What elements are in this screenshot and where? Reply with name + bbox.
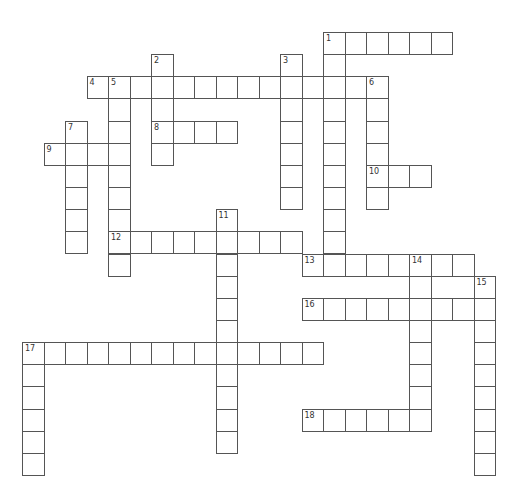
crossword-cell[interactable]	[474, 298, 497, 321]
crossword-cell[interactable]	[65, 143, 88, 166]
crossword-cell[interactable]: 18	[302, 409, 325, 432]
crossword-cell[interactable]	[474, 364, 497, 387]
crossword-cell[interactable]	[323, 298, 346, 321]
crossword-cell[interactable]	[237, 342, 260, 365]
crossword-cell[interactable]	[323, 121, 346, 144]
crossword-cell[interactable]	[366, 298, 389, 321]
crossword-cell[interactable]	[302, 342, 325, 365]
crossword-cell[interactable]	[323, 187, 346, 210]
crossword-cell[interactable]	[280, 98, 303, 121]
crossword-cell[interactable]	[216, 276, 239, 299]
crossword-cell[interactable]: 6	[366, 76, 389, 99]
crossword-cell[interactable]	[108, 187, 131, 210]
crossword-cell[interactable]	[323, 209, 346, 232]
crossword-cell[interactable]	[409, 320, 432, 343]
crossword-cell[interactable]	[345, 298, 368, 321]
crossword-cell[interactable]	[366, 187, 389, 210]
crossword-cell[interactable]: 7	[65, 121, 88, 144]
crossword-cell[interactable]	[474, 453, 497, 476]
crossword-cell[interactable]	[108, 165, 131, 188]
crossword-cell[interactable]	[173, 121, 196, 144]
crossword-cell[interactable]	[87, 143, 110, 166]
crossword-cell[interactable]	[130, 342, 153, 365]
crossword-cell[interactable]	[87, 342, 110, 365]
crossword-cell[interactable]	[130, 231, 153, 254]
crossword-cell[interactable]	[345, 76, 368, 99]
crossword-cell[interactable]: 14	[409, 254, 432, 277]
crossword-cell[interactable]	[22, 453, 45, 476]
crossword-cell[interactable]: 13	[302, 254, 325, 277]
crossword-cell[interactable]	[280, 342, 303, 365]
crossword-cell[interactable]: 4	[87, 76, 110, 99]
crossword-cell[interactable]	[474, 342, 497, 365]
crossword-cell[interactable]	[108, 98, 131, 121]
crossword-cell[interactable]: 3	[280, 54, 303, 77]
crossword-cell[interactable]	[216, 320, 239, 343]
crossword-cell[interactable]	[388, 298, 411, 321]
crossword-cell[interactable]	[323, 254, 346, 277]
crossword-cell[interactable]: 1	[323, 32, 346, 55]
crossword-cell[interactable]	[151, 76, 174, 99]
crossword-cell[interactable]	[323, 54, 346, 77]
crossword-cell[interactable]	[280, 76, 303, 99]
crossword-cell[interactable]	[345, 32, 368, 55]
crossword-cell[interactable]	[108, 209, 131, 232]
crossword-cell[interactable]	[151, 98, 174, 121]
crossword-cell[interactable]	[194, 231, 217, 254]
crossword-cell[interactable]: 15	[474, 276, 497, 299]
crossword-cell[interactable]	[366, 143, 389, 166]
crossword-cell[interactable]	[366, 32, 389, 55]
crossword-cell[interactable]	[108, 342, 131, 365]
crossword-cell[interactable]	[409, 276, 432, 299]
crossword-cell[interactable]	[216, 254, 239, 277]
crossword-cell[interactable]	[280, 165, 303, 188]
crossword-cell[interactable]	[65, 165, 88, 188]
crossword-cell[interactable]	[216, 386, 239, 409]
crossword-cell[interactable]	[194, 342, 217, 365]
crossword-cell[interactable]: 8	[151, 121, 174, 144]
crossword-cell[interactable]	[216, 409, 239, 432]
crossword-cell[interactable]	[280, 143, 303, 166]
crossword-cell[interactable]	[366, 121, 389, 144]
crossword-cell[interactable]	[323, 409, 346, 432]
crossword-cell[interactable]	[216, 364, 239, 387]
crossword-cell[interactable]	[409, 409, 432, 432]
crossword-cell[interactable]	[108, 254, 131, 277]
crossword-cell[interactable]	[431, 254, 454, 277]
crossword-cell[interactable]	[409, 386, 432, 409]
crossword-cell[interactable]	[237, 231, 260, 254]
crossword-cell[interactable]: 11	[216, 209, 239, 232]
crossword-cell[interactable]	[280, 121, 303, 144]
crossword-cell[interactable]	[194, 76, 217, 99]
crossword-cell[interactable]	[216, 342, 239, 365]
crossword-cell[interactable]	[323, 98, 346, 121]
crossword-cell[interactable]	[216, 231, 239, 254]
crossword-cell[interactable]	[366, 254, 389, 277]
crossword-cell[interactable]	[323, 76, 346, 99]
crossword-cell[interactable]	[452, 298, 475, 321]
crossword-cell[interactable]	[431, 298, 454, 321]
crossword-cell[interactable]	[65, 231, 88, 254]
crossword-cell[interactable]	[474, 386, 497, 409]
crossword-cell[interactable]: 12	[108, 231, 131, 254]
crossword-cell[interactable]	[452, 254, 475, 277]
crossword-cell[interactable]	[366, 409, 389, 432]
crossword-cell[interactable]: 9	[44, 143, 67, 166]
crossword-cell[interactable]	[108, 143, 131, 166]
crossword-cell[interactable]	[22, 364, 45, 387]
crossword-cell[interactable]	[173, 342, 196, 365]
crossword-cell[interactable]	[474, 320, 497, 343]
crossword-cell[interactable]: 2	[151, 54, 174, 77]
crossword-cell[interactable]	[237, 76, 260, 99]
crossword-cell[interactable]	[22, 431, 45, 454]
crossword-cell[interactable]: 5	[108, 76, 131, 99]
crossword-cell[interactable]	[216, 431, 239, 454]
crossword-cell[interactable]	[409, 32, 432, 55]
crossword-cell[interactable]	[22, 409, 45, 432]
crossword-cell[interactable]	[151, 143, 174, 166]
crossword-cell[interactable]	[151, 342, 174, 365]
crossword-cell[interactable]: 17	[22, 342, 45, 365]
crossword-cell[interactable]: 10	[366, 165, 389, 188]
crossword-cell[interactable]	[108, 121, 131, 144]
crossword-cell[interactable]	[22, 386, 45, 409]
